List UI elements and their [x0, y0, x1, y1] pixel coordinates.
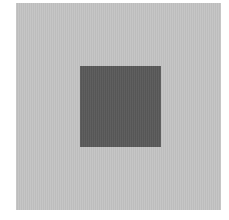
figure-canvas	[0, 0, 229, 220]
inner-dark-square	[80, 66, 161, 147]
